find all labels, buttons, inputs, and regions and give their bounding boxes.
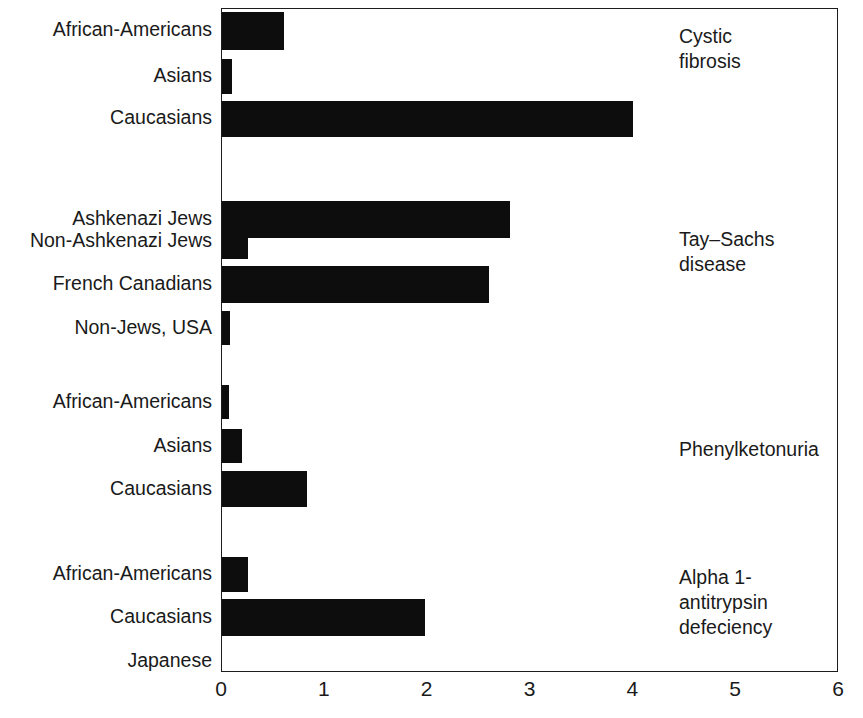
- bar: [222, 385, 229, 419]
- category-label: Asians: [153, 66, 212, 86]
- category-label: Non-Ashkenazi Jews: [30, 231, 212, 251]
- category-label: Caucasians: [110, 479, 212, 499]
- category-label: Non-Jews, USA: [74, 318, 212, 338]
- category-label: African-Americans: [53, 20, 212, 40]
- bar: [222, 101, 633, 137]
- bar: [222, 471, 307, 507]
- category-label: Ashkenazi Jews: [72, 209, 212, 229]
- group-label: Phenylketonuria: [679, 437, 819, 462]
- group-label: Tay–Sachs disease: [679, 227, 774, 277]
- genetic-disease-carrier-frequency-chart: African-AmericansAsiansCaucasiansAshkena…: [0, 0, 863, 718]
- group-label: Alpha 1- antitrypsin defeciency: [679, 565, 772, 640]
- category-label: French Canadians: [53, 274, 212, 294]
- x-tick-label: 1: [318, 678, 330, 699]
- x-tick-label: 6: [832, 678, 844, 699]
- bar: [222, 201, 510, 238]
- x-tick-label: 3: [524, 678, 536, 699]
- category-label: Asians: [153, 436, 212, 456]
- category-label: African-Americans: [53, 564, 212, 584]
- category-label: Caucasians: [110, 108, 212, 128]
- bar: [222, 12, 284, 50]
- x-tick-label: 4: [626, 678, 638, 699]
- bar: [222, 429, 242, 463]
- category-label: Caucasians: [110, 607, 212, 627]
- x-tick-label: 5: [729, 678, 741, 699]
- bar: [222, 311, 230, 345]
- bar: [222, 557, 248, 592]
- x-tick-label: 2: [421, 678, 433, 699]
- group-label: Cystic fibrosis: [679, 24, 741, 74]
- category-label: Japanese: [127, 651, 212, 671]
- x-tick-label: 0: [215, 678, 227, 699]
- bar: [222, 223, 248, 259]
- category-label: African-Americans: [53, 392, 212, 412]
- category-axis-labels: African-AmericansAsiansCaucasiansAshkena…: [0, 0, 212, 672]
- bar: [222, 59, 232, 94]
- bar: [222, 599, 425, 636]
- bar: [222, 266, 489, 303]
- x-axis: 0123456: [0, 672, 863, 718]
